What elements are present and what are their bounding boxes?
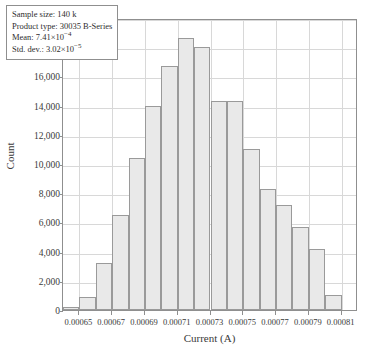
histogram-bar [309,249,325,310]
statistics-annotation-box: Sample size: 140 k Product type: 30035 B… [6,5,118,60]
y-axis-tick-label: 10,000 [16,160,60,170]
histogram-bar [292,227,308,310]
x-axis-tick-mark [111,311,112,315]
histogram-bar [211,101,227,310]
y-axis-tick-label: 12,000 [16,131,60,141]
annotation-mean-exponent: −4 [64,30,71,38]
histogram-bar [129,158,145,310]
annotation-sample-size-label: Sample size: [12,9,55,19]
x-axis-ticks: 0.000650.000670.000690.000710.000730.000… [62,311,357,333]
y-axis-tick-label: 0 [16,306,60,316]
x-axis-tick-label: 0.00065 [65,317,93,327]
annotation-mean-value: 7.41×10 [36,32,64,42]
x-axis-tick-label: 0.00067 [97,317,125,327]
histogram-bar [276,205,292,310]
x-axis-tick-mark [177,311,178,315]
histogram-bar [96,263,112,310]
y-axis-tick-label: 14,000 [16,102,60,112]
x-axis-tick-label: 0.00079 [294,317,322,327]
x-axis-tick-mark [210,311,211,315]
x-axis-title: Current (A) [62,332,357,344]
y-axis-tick-label: 6,000 [16,218,60,228]
y-axis-tick-label: 2,000 [16,277,60,287]
annotation-std-dev-value: 3.02×10 [46,44,74,54]
x-axis-tick-mark [275,311,276,315]
histogram-bar [178,38,194,310]
histogram-bar [63,307,79,310]
histogram-bar [260,189,276,310]
annotation-std-dev: Std. dev.: 3.02×10−5 [12,44,112,56]
x-axis-tick-mark [144,311,145,315]
histogram-bar [161,66,177,310]
histogram-bars [63,20,356,310]
histogram-bar [112,215,128,310]
annotation-mean: Mean: 7.41×10−4 [12,32,112,44]
x-axis-tick-mark [242,311,243,315]
x-axis-tick-label: 0.00069 [130,317,158,327]
x-axis-tick-label: 0.00081 [327,317,355,327]
histogram-bar [227,101,243,310]
histogram-figure: Count 02,0004,0006,0008,00010,00012,0001… [0,0,371,358]
x-axis-tick-label: 0.00071 [163,317,191,327]
x-axis-tick-label: 0.00077 [261,317,289,327]
y-axis-tick-label: 8,000 [16,189,60,199]
y-axis-ticks: 02,0004,0006,0008,00010,00012,00014,0001… [14,19,60,311]
annotation-sample-size-value: 140 k [57,9,76,19]
x-axis-tick-mark [341,311,342,315]
histogram-bar [145,106,161,310]
plot-area [62,19,357,311]
x-axis-tick-label: 0.00075 [228,317,256,327]
x-axis-tick-mark [78,311,79,315]
annotation-sample-size: Sample size: 140 k [12,9,112,21]
x-axis-tick-label: 0.00073 [196,317,224,327]
y-axis-tick-label: 4,000 [16,248,60,258]
annotation-std-dev-label: Std. dev.: [12,44,44,54]
annotation-mean-label: Mean: [12,32,34,42]
x-axis-tick-mark [308,311,309,315]
histogram-bar [79,297,95,310]
annotation-product-type-label: Product type: [12,21,58,31]
annotation-product-type-value: 30035 B-Series [60,21,113,31]
histogram-bar [243,149,259,310]
y-axis-tick-label: 16,000 [16,72,60,82]
histogram-bar [194,47,210,310]
annotation-product-type: Product type: 30035 B-Series [12,21,112,33]
annotation-std-dev-exponent: −5 [74,42,81,50]
histogram-bar [325,295,341,310]
